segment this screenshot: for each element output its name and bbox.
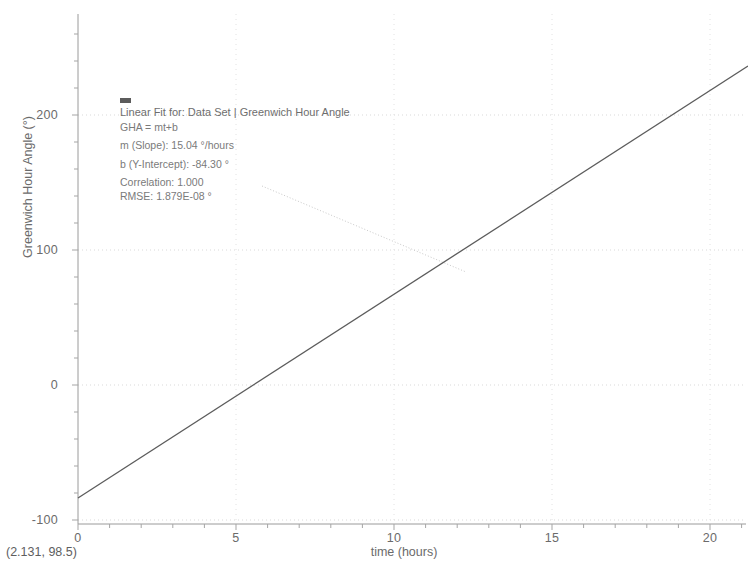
y-tick-label: -100: [14, 513, 58, 527]
fit-box-title: Linear Fit for: Data Set | Greenwich Hou…: [120, 105, 365, 119]
x-gridlines: [236, 14, 710, 520]
fit-box-correlation: Correlation: 1.000: [120, 175, 365, 189]
fit-box-rmse: RMSE: 1.879E-08 °: [120, 189, 365, 203]
y-tick-label: 0: [14, 378, 58, 392]
fit-box-slope: m (Slope): 15.04 °/hours: [120, 138, 365, 152]
x-tick-label: 0: [58, 531, 98, 545]
y-axis-ticks: [72, 34, 78, 520]
fit-line-swatch-icon: [120, 98, 131, 103]
y-axis-title: Greenwich Hour Angle (°): [21, 67, 35, 307]
fit-box-intercept: b (Y-Intercept): -84.30 °: [120, 157, 365, 171]
x-tick-label: 10: [374, 531, 414, 545]
linear-fit-box[interactable]: Linear Fit for: Data Set | Greenwich Hou…: [120, 98, 365, 203]
chart-container: 200 100 0 -100 0 5 10 15 20 Greenwich Ho…: [0, 0, 748, 566]
coordinate-readout: (2.131, 98.5): [6, 545, 77, 559]
x-tick-label: 20: [690, 531, 730, 545]
x-axis-title: time (hours): [304, 545, 504, 559]
fit-box-equation: GHA = mt+b: [120, 120, 365, 134]
x-tick-label: 15: [532, 531, 572, 545]
x-tick-label: 5: [216, 531, 256, 545]
plot-area[interactable]: [0, 0, 748, 566]
x-axis-ticks: [78, 524, 742, 530]
